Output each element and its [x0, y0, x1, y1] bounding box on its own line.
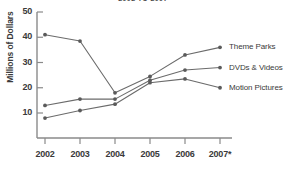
x-tick-label-0: 2002 [35, 149, 54, 159]
data-point-dvds-videos-2002 [43, 104, 47, 108]
data-point-dvds-videos-2007* [218, 66, 222, 70]
data-point-motion-pictures-2006 [183, 77, 187, 81]
x-tick-label-1: 2003 [70, 149, 89, 159]
y-tick-label-40: 40 [12, 31, 32, 41]
data-point-motion-pictures-2002 [43, 116, 47, 120]
series-label-theme-parks: Theme Parks [229, 42, 275, 51]
data-series [43, 33, 222, 120]
series-label-dvds-videos: DVDs & Videos [229, 63, 283, 72]
data-point-dvds-videos-2003 [78, 97, 82, 101]
series-line-dvds-videos [45, 68, 220, 106]
series-label-motion-pictures: Motion Pictures [229, 83, 283, 92]
data-point-theme-parks-2007* [218, 45, 222, 49]
x-tick-label-5: 2007* [209, 149, 232, 159]
series-line-theme-parks [45, 35, 220, 93]
data-point-theme-parks-2002 [43, 33, 47, 37]
data-point-dvds-videos-2004 [113, 97, 117, 101]
y-tick-label-10: 10 [12, 107, 32, 117]
data-point-theme-parks-2004 [113, 91, 117, 95]
data-point-dvds-videos-2006 [183, 68, 187, 72]
line-chart: 2002 TO 2007 Millions of Dollars 1020304… [0, 0, 286, 172]
y-tick-label-50: 50 [12, 6, 32, 16]
x-tick-label-3: 2005 [140, 149, 159, 159]
y-tick-label-30: 30 [12, 57, 32, 67]
axes [37, 12, 232, 144]
x-tick-label-4: 2006 [175, 149, 194, 159]
data-point-theme-parks-2003 [78, 39, 82, 43]
data-point-motion-pictures-2004 [113, 102, 117, 106]
data-point-motion-pictures-2003 [78, 109, 82, 113]
data-point-motion-pictures-2005 [148, 81, 152, 85]
data-point-theme-parks-2005 [148, 74, 152, 78]
data-point-motion-pictures-2007* [218, 86, 222, 90]
x-tick-label-2: 2004 [105, 149, 124, 159]
y-tick-label-20: 20 [12, 82, 32, 92]
data-point-theme-parks-2006 [183, 53, 187, 57]
